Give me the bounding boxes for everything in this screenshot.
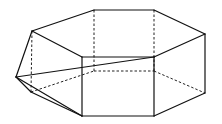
hexagonal-prism-diagram [0,0,222,124]
visible-edges [16,10,205,116]
edge-T3-T4 [154,10,205,34]
edge-T1-T2 [32,10,94,31]
edge-L-B6 [16,77,82,116]
edge-T1-L [16,31,32,77]
hidden-edge-T1-B1 [31,31,32,92]
edge-T4-T5 [154,34,205,57]
edge-B5-B4 [154,93,205,116]
hidden-edge-B1-B2 [31,71,94,92]
edge-T6-T1 [32,31,82,57]
edge-L-T5 [16,57,154,77]
hidden-edge-B3-B4 [154,71,205,93]
edge-B1-B6 [31,92,82,116]
